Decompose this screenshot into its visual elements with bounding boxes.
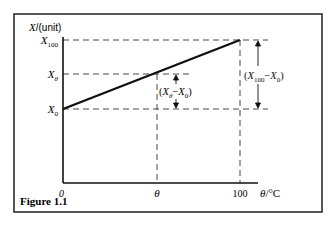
arrow-down-icon — [174, 103, 179, 108]
y-tick-x100: X100 — [40, 34, 59, 49]
y-tick-xtheta: Xθ — [47, 68, 59, 83]
arrow-up-icon — [256, 41, 261, 46]
y-tick-x0: X0 — [47, 103, 59, 118]
linear-relationship-line — [63, 40, 240, 109]
large-diff-arrows — [256, 41, 261, 108]
x-tick-theta: θ — [154, 187, 160, 199]
y-axis-label: X/(unit) — [28, 21, 61, 33]
figure-diagram: X/(unit) X100 Xθ X0 0 θ 100 θ/°C (Xθ−X0) — [0, 0, 336, 234]
arrow-down-icon — [256, 103, 261, 108]
arrow-up-icon — [174, 75, 179, 80]
x-axis-label: θ/°C — [260, 187, 280, 199]
figure-caption: Figure 1.1 — [20, 195, 67, 207]
large-diff-label: (X100−X0) — [244, 70, 284, 84]
x-tick-hundred: 100 — [233, 188, 248, 199]
guide-lines — [63, 40, 268, 183]
axes — [63, 37, 258, 183]
small-diff-label: (Xθ−X0) — [159, 86, 192, 100]
